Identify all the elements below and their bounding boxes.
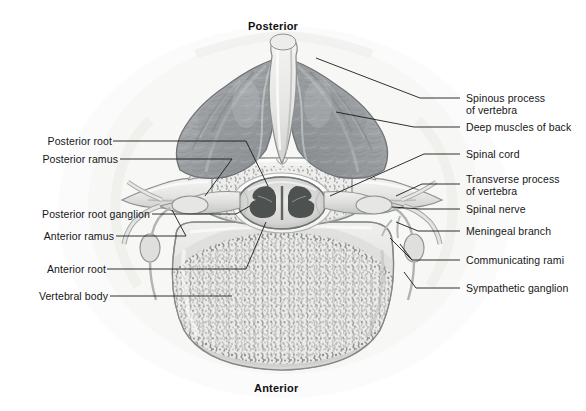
label-spinous-process: Spinous process of vertebra — [466, 93, 545, 116]
label-posterior-root: Posterior root — [28, 136, 112, 148]
label-deep-muscles-of-back: Deep muscles of back — [466, 122, 571, 134]
label-sympathetic-ganglion: Sympathetic ganglion — [466, 283, 568, 295]
grey-matter-butterfly — [244, 186, 320, 220]
label-spinal-cord: Spinal cord — [466, 149, 520, 161]
label-transverse-process-line1: Transverse process — [466, 174, 560, 186]
label-posterior-root-ganglion: Posterior root ganglion — [22, 209, 150, 221]
anatomy-figure-page: Posterior Anterior Posterior root Poster… — [0, 0, 586, 411]
orientation-label-posterior: Posterior — [248, 20, 298, 32]
label-meningeal-branch: Meningeal branch — [466, 226, 551, 238]
label-vertebral-body: Vertebral body — [22, 291, 108, 303]
label-spinous-process-line1: Spinous process — [466, 93, 545, 105]
label-communicating-rami: Communicating rami — [466, 255, 564, 267]
posterior-root-ganglion-right — [356, 196, 392, 214]
label-posterior-ramus: Posterior ramus — [22, 154, 118, 166]
spinal-cord-structure — [232, 173, 332, 233]
label-anterior-root: Anterior root — [22, 264, 106, 276]
sympathetic-ganglion-left — [140, 234, 160, 262]
label-anterior-ramus: Anterior ramus — [22, 231, 114, 243]
label-spinous-process-line2: of vertebra — [466, 105, 545, 117]
orientation-label-anterior: Anterior — [254, 382, 298, 394]
posterior-root-ganglion-left — [172, 196, 208, 214]
label-transverse-process-line2: of vertebra — [466, 186, 560, 198]
label-spinal-nerve: Spinal nerve — [466, 204, 526, 216]
sympathetic-ganglion-right — [404, 234, 424, 262]
label-transverse-process: Transverse process of vertebra — [466, 174, 560, 197]
